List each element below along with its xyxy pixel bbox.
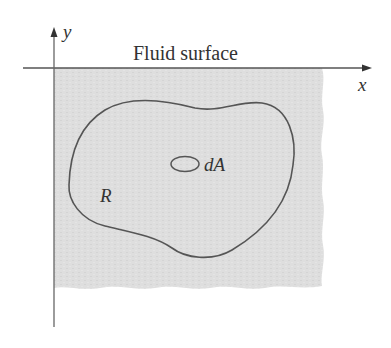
element-label: dA	[204, 154, 226, 175]
surface-label: Fluid surface	[133, 42, 238, 64]
x-axis-label: x	[357, 74, 367, 95]
y-axis-arrow-icon	[51, 27, 58, 37]
y-axis-label: y	[61, 21, 72, 42]
x-axis-arrow-icon	[362, 65, 372, 72]
fluid-pressure-diagram: y Fluid surface x R dA	[0, 0, 391, 348]
region-label: R	[99, 185, 112, 206]
